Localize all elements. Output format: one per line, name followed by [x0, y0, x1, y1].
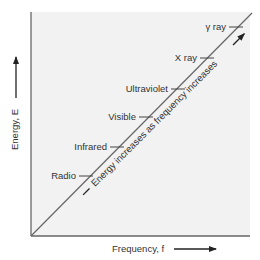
x-axis-label: Frequency, f [112, 243, 164, 254]
y-axis-label: Energy, E [9, 109, 20, 150]
region-label: Infrared [74, 141, 107, 152]
energy-frequency-diagram: RadioInfraredVisibleUltravioletX rayγ ra… [0, 0, 260, 260]
region-label: X ray [175, 52, 197, 63]
region-label: Visible [108, 111, 136, 122]
region-label: Radio [51, 170, 76, 181]
region-label: γ ray [205, 21, 226, 32]
region-label: Ultraviolet [126, 83, 169, 94]
